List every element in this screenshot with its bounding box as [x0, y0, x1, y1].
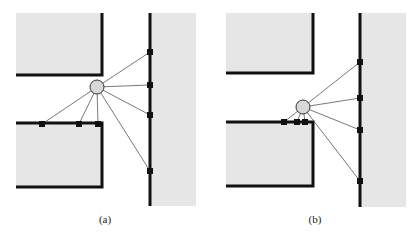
marker — [95, 121, 101, 127]
panel-label: (a) — [99, 213, 112, 226]
figure: (a) (b) — [0, 0, 420, 235]
panel-b: (b) — [226, 13, 406, 226]
marker — [357, 59, 363, 65]
marker — [281, 119, 287, 125]
marker — [302, 119, 308, 125]
marker — [76, 121, 82, 127]
ray — [97, 52, 150, 87]
marker — [147, 82, 153, 88]
ray — [42, 87, 97, 124]
marker — [357, 178, 363, 184]
top-left-region — [226, 13, 313, 73]
marker — [147, 49, 153, 55]
ray — [97, 87, 150, 115]
ray — [303, 98, 360, 107]
marker — [357, 127, 363, 133]
source-node — [90, 80, 104, 94]
edge-markers — [281, 119, 308, 125]
bottom-left-region — [16, 123, 102, 187]
source-node — [296, 100, 310, 114]
marker — [294, 119, 300, 125]
marker — [147, 168, 153, 174]
top-left-region — [16, 13, 102, 75]
marker — [357, 95, 363, 101]
marker — [147, 112, 153, 118]
panel-label: (b) — [309, 213, 322, 226]
marker — [39, 121, 45, 127]
ray — [97, 87, 150, 171]
right-region — [361, 13, 406, 207]
ray — [97, 85, 150, 87]
panel-a: (a) — [16, 13, 196, 226]
bottom-left-region — [226, 122, 313, 186]
right-region — [151, 13, 196, 206]
